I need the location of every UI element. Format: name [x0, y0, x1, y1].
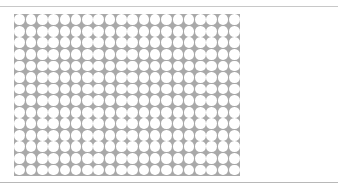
circle-cell: [37, 49, 48, 61]
circle-cell: [217, 106, 228, 118]
circle-cell: [116, 72, 127, 84]
circle-cell: [217, 118, 228, 130]
circle-cell: [150, 37, 161, 49]
circle-cell: [82, 141, 93, 153]
circle-cell: [183, 60, 194, 72]
circle-cell: [229, 164, 240, 176]
circle-cell: [229, 49, 240, 61]
circle-cell: [93, 83, 104, 95]
circle-cell: [217, 153, 228, 165]
circle-cell: [172, 60, 183, 72]
circle-cell: [59, 72, 70, 84]
circle-cell: [59, 26, 70, 38]
circle-cell: [183, 141, 194, 153]
circle-cell: [206, 26, 217, 38]
circle-cell: [104, 83, 115, 95]
circle-cell: [48, 118, 59, 130]
circle-cell: [104, 141, 115, 153]
circle-cell: [127, 26, 138, 38]
circle-cell: [217, 26, 228, 38]
circle-cell: [70, 129, 81, 141]
circle-cell: [48, 60, 59, 72]
circle-cell: [70, 37, 81, 49]
circle-cell: [172, 26, 183, 38]
circle-cell: [48, 72, 59, 84]
circle-cell: [183, 14, 194, 26]
circle-cell: [14, 106, 25, 118]
circle-cell: [183, 37, 194, 49]
circle-cell: [104, 60, 115, 72]
circle-cell: [172, 14, 183, 26]
circle-cell: [138, 106, 149, 118]
circle-cell: [93, 95, 104, 107]
circle-cell: [37, 129, 48, 141]
circle-cell: [206, 141, 217, 153]
circle-cell: [206, 95, 217, 107]
circle-cell: [14, 14, 25, 26]
circle-cell: [59, 83, 70, 95]
circle-cell: [116, 26, 127, 38]
circle-cell: [25, 37, 36, 49]
circle-cell: [138, 129, 149, 141]
circle-cell: [183, 106, 194, 118]
circle-cell: [59, 129, 70, 141]
circle-cell: [138, 26, 149, 38]
circle-cell: [217, 60, 228, 72]
circle-cell: [127, 83, 138, 95]
circle-cell: [206, 37, 217, 49]
circle-cell: [25, 95, 36, 107]
circle-cell: [127, 164, 138, 176]
circle-cell: [14, 37, 25, 49]
circle-cell: [150, 72, 161, 84]
circle-cell: [195, 37, 206, 49]
circle-cell: [48, 49, 59, 61]
circle-cell: [93, 141, 104, 153]
circle-cell: [206, 49, 217, 61]
circle-cell: [93, 164, 104, 176]
circle-cell: [150, 26, 161, 38]
circle-cell: [138, 49, 149, 61]
circle-cell: [172, 153, 183, 165]
circle-cell: [37, 83, 48, 95]
circle-cell: [93, 60, 104, 72]
circle-cell: [161, 95, 172, 107]
circle-cell: [82, 72, 93, 84]
circle-cell: [48, 106, 59, 118]
circle-cell: [206, 60, 217, 72]
circle-cell: [116, 60, 127, 72]
circle-cell: [14, 83, 25, 95]
circle-cell: [25, 26, 36, 38]
circle-cell: [82, 37, 93, 49]
circle-cell: [217, 72, 228, 84]
circle-cell: [229, 129, 240, 141]
circle-cell: [150, 118, 161, 130]
circle-cell: [229, 95, 240, 107]
circle-cell: [161, 37, 172, 49]
circle-cell: [37, 153, 48, 165]
circle-cell: [82, 60, 93, 72]
circle-cell: [150, 153, 161, 165]
circle-cell: [48, 164, 59, 176]
circle-cell: [14, 26, 25, 38]
circle-cell: [93, 118, 104, 130]
circle-cell: [25, 141, 36, 153]
circle-cell: [138, 164, 149, 176]
circle-cell: [104, 95, 115, 107]
circle-cell: [172, 141, 183, 153]
circle-cell: [229, 60, 240, 72]
circle-cell: [127, 60, 138, 72]
circle-cell: [70, 60, 81, 72]
circle-cell: [70, 72, 81, 84]
circle-cell: [229, 118, 240, 130]
circle-cell: [138, 141, 149, 153]
circle-cell: [217, 37, 228, 49]
circle-cell: [14, 49, 25, 61]
circle-cell: [206, 153, 217, 165]
circle-cell: [195, 164, 206, 176]
circle-cell: [93, 14, 104, 26]
circle-cell: [82, 14, 93, 26]
circle-cell: [37, 141, 48, 153]
circle-cell: [70, 141, 81, 153]
circle-cell: [138, 72, 149, 84]
circle-cell: [195, 26, 206, 38]
